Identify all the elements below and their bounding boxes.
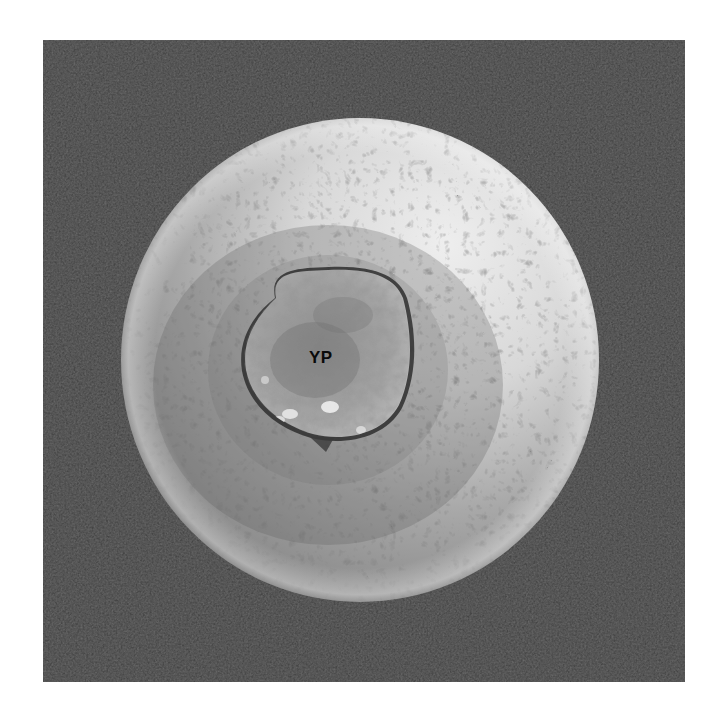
micrograph-frame: YP xyxy=(43,40,685,682)
micrograph-image xyxy=(43,40,685,682)
yolk-plug-label: YP xyxy=(309,349,333,366)
